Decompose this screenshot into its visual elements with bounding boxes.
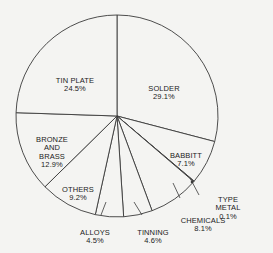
- label-solder: SOLDER 29.1%: [148, 76, 179, 110]
- label-bronze-name: BRONZE AND BRASS: [36, 135, 68, 161]
- type-metal-marker: [191, 181, 194, 184]
- label-bronze-and-brass: BRONZE AND BRASS 12.9%: [36, 127, 68, 178]
- label-alloys-pct: 4.5%: [80, 237, 110, 246]
- label-tinning-pct: 4.6%: [137, 237, 169, 246]
- label-tin-plate-pct: 24.5%: [56, 85, 94, 94]
- label-others-pct: 9.2%: [62, 194, 94, 203]
- label-chemicals: CHEMICALS 8.1%: [181, 208, 226, 242]
- label-alloys: ALLOYS 4.5%: [80, 220, 110, 253]
- label-tin-plate: TIN PLATE 24.5%: [56, 68, 94, 102]
- label-babbitt: BABBITT 7.1%: [170, 143, 202, 177]
- label-others: OTHERS 9.2%: [62, 177, 94, 211]
- label-solder-pct: 29.1%: [148, 93, 179, 102]
- label-bronze-pct: 12.9%: [36, 161, 68, 170]
- label-tinning: TINNING 4.6%: [137, 220, 169, 253]
- label-chemicals-pct: 8.1%: [181, 225, 226, 234]
- pie-slices: [16, 15, 218, 217]
- label-babbitt-pct: 7.1%: [170, 160, 202, 169]
